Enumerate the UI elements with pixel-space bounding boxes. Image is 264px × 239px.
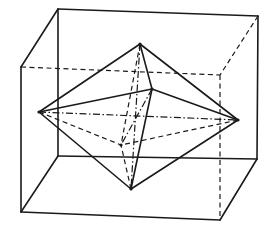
cube-edge-front-top-left-to-back-top-left xyxy=(21,9,58,67)
octahedron-in-cube-diagram xyxy=(0,0,264,239)
octahedron-edge-left-to-back xyxy=(39,112,121,145)
cube-edge-front-bottom-right-to-back-bottom-right xyxy=(220,159,257,220)
cube-edge-front-bottom-right-to-front-bottom-left xyxy=(58,156,257,159)
octahedron-vertex-back xyxy=(119,143,122,146)
octahedron-edge-right-to-front xyxy=(152,89,238,120)
octahedron-axes xyxy=(39,44,238,189)
octahedron-edge-right-to-back xyxy=(121,120,238,145)
octahedron-vertex-left xyxy=(37,110,40,113)
octahedron-vertex-bottom xyxy=(129,187,132,190)
octahedron-edge-bottom-to-right xyxy=(131,120,238,189)
octahedron-edge-top-to-front xyxy=(140,44,152,89)
octahedron-edge-bottom-to-left xyxy=(39,112,131,189)
cube-edge-front-top-right-to-back-top-right xyxy=(220,16,258,75)
cube-edge-back-top-left-to-back-top-right xyxy=(21,67,220,75)
octahedron-vertex-right xyxy=(236,118,239,121)
octahedron-edge-top-to-right xyxy=(140,44,238,120)
octahedron-vertex-top xyxy=(138,42,141,45)
cube-edge-front-top-left-to-front-top-right xyxy=(58,9,258,16)
cube-edge-front-bottom-left-to-back-bottom-left xyxy=(21,156,58,212)
octahedron-axis-front-to-back xyxy=(121,89,152,145)
cube-edge-front-top-right-to-front-bottom-right xyxy=(257,16,258,159)
octahedron-vertex-front xyxy=(150,87,153,90)
cube-edge-back-bottom-left-to-back-bottom-right xyxy=(21,212,220,220)
